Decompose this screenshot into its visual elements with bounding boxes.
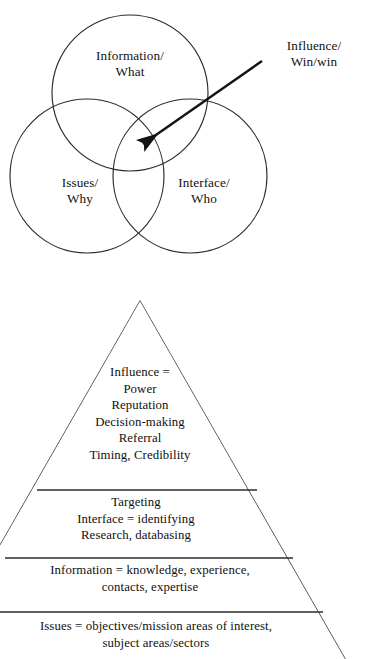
figure-canvas: Information/ What Issues/ Why Interface/… <box>0 0 375 659</box>
pyramid-tier-label-influence: Influence = Power Reputation Decision-ma… <box>45 364 235 463</box>
venn-label-issues: Issues/ Why <box>32 175 128 207</box>
venn-label-interface: Interface/ Who <box>152 175 256 207</box>
venn-callout-label-influence: Influence/ Win/win <box>262 38 366 70</box>
diagram-labels: Information/ What Issues/ Why Interface/… <box>0 0 375 659</box>
pyramid-tier-label-issues: Issues = objectives/mission areas of int… <box>0 618 312 651</box>
pyramid-tier-label-information: Information = knowledge, experience, con… <box>12 562 288 595</box>
pyramid-tier-label-interface: Targeting Interface = identifying Resear… <box>36 494 236 544</box>
venn-label-information: Information/ What <box>74 48 186 80</box>
